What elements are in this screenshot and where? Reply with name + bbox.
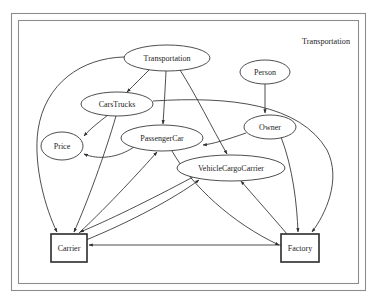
edge-owner-factory [281, 137, 298, 232]
node-vehiclecargocarrier[interactable]: VehicleCargoCarrier [177, 155, 285, 181]
node-passengercar-label: PassengerCar [140, 134, 184, 143]
edge-transportation-passengercar [163, 71, 166, 124]
node-carrier-label: Carrier [58, 244, 81, 253]
node-transportation[interactable]: Transportation [124, 45, 210, 71]
node-person[interactable]: Person [240, 60, 290, 84]
node-price-label: Price [54, 142, 71, 151]
edge-carstrucks-price [84, 115, 108, 136]
node-price[interactable]: Price [41, 132, 83, 160]
node-owner[interactable]: Owner [244, 115, 296, 139]
node-carrier[interactable]: Carrier [51, 234, 87, 262]
edge-vehiclecargocarrier-carrier [80, 177, 193, 232]
node-vehiclecargocarrier-label: VehicleCargoCarrier [198, 164, 264, 173]
transportation-class-diagram: Transportation [0, 0, 382, 305]
node-carstrucks[interactable]: CarsTrucks [81, 92, 153, 116]
edge-transportation-carstrucks [127, 69, 150, 92]
node-person-label: Person [254, 68, 276, 77]
node-transportation-label: Transportation [144, 54, 191, 63]
node-factory-label: Factory [288, 244, 312, 253]
edge-carrier-passengercar [79, 152, 157, 233]
edge-factory-vehiclecargocarrier [241, 181, 287, 234]
diagram-canvas: Transportation [0, 0, 382, 305]
edge-owner-passengercar [203, 133, 246, 145]
node-carstrucks-label: CarsTrucks [99, 100, 136, 109]
node-factory[interactable]: Factory [281, 234, 319, 262]
edge-passengercar-price [84, 147, 134, 157]
node-owner-label: Owner [259, 123, 281, 132]
diagram-title: Transportation [302, 37, 350, 46]
edge-carstrucks-carrier [74, 116, 116, 232]
node-passengercar[interactable]: PassengerCar [121, 125, 203, 151]
